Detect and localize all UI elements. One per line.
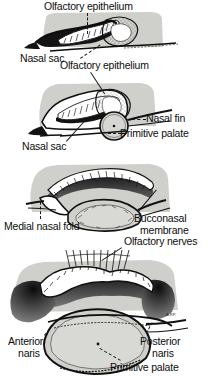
label-primitive-palate-4: Primitive palate [110, 362, 179, 374]
label-nasal-sac-2: Nasal sac [22, 141, 66, 153]
leader-nasal-fin [126, 119, 146, 120]
label-primitive-palate-2: Primitive palate [120, 128, 189, 140]
label-bucconasal-membrane-line1: Bucconasal [134, 213, 186, 225]
label-anterior-naris-line2: naris [18, 348, 40, 360]
label-posterior-naris-line2: naris [152, 348, 174, 360]
label-nasal-fin: Nasal fin [146, 113, 185, 125]
leader-primitive-palate-2 [108, 133, 121, 134]
label-nasal-sac-1: Nasal sac [20, 53, 64, 65]
label-olfactory-epithelium-1: Olfactory epithelium [44, 1, 133, 13]
artist-signature: A.RP. [166, 312, 176, 317]
leader-olfactory-epithelium-1 [87, 13, 88, 34]
label-medial-nasal-fold: Medial nasal fold [4, 221, 79, 233]
label-olfactory-epithelium-2: Olfactory epithelium [60, 60, 149, 72]
label-posterior-naris-line1: Posterior [140, 336, 180, 348]
label-anterior-naris-line1: Anterior [8, 336, 43, 348]
anatomical-figure: Olfactory epithelium Nasal sac [0, 0, 214, 379]
label-olfactory-nerves: Olfactory nerves [124, 236, 197, 248]
leader-medial-nasal-fold [40, 197, 41, 219]
